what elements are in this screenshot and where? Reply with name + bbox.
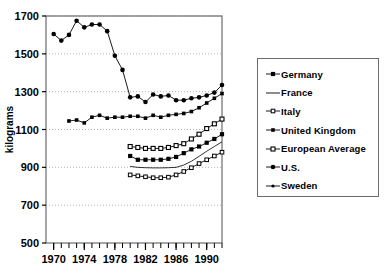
marker-small-filled-square <box>144 116 148 120</box>
marker-open-square <box>182 142 186 146</box>
marker-filled-circle <box>151 92 156 97</box>
x-tick-label: 1978 <box>103 253 127 265</box>
y-tick-label: 1500 <box>15 48 39 60</box>
legend-item-label: Italy <box>281 106 301 117</box>
marker-filled-circle <box>174 98 179 103</box>
legend-item-label: European Average <box>281 143 366 154</box>
marker-open-square <box>136 145 140 149</box>
series-u-s <box>51 18 224 104</box>
marker-open-square <box>271 147 275 151</box>
marker-filled-square <box>220 132 224 136</box>
legend-marker-open-square-icon <box>265 143 281 155</box>
marker-filled-circle <box>67 33 72 38</box>
marker-filled-square <box>174 155 178 159</box>
marker-filled-circle <box>74 18 79 23</box>
marker-small-filled-square <box>82 121 86 125</box>
marker-open-square <box>166 145 170 149</box>
marker-filled-circle <box>158 94 163 99</box>
marker-small-filled-square <box>271 128 275 132</box>
marker-small-filled-square <box>220 92 224 96</box>
marker-filled-circle <box>120 68 125 73</box>
marker-open-square <box>151 146 155 150</box>
marker-open-square-small <box>190 166 194 170</box>
chart-screenshot: 5007009001100130015001700 19701974197819… <box>0 0 385 274</box>
legend-item-sweden[interactable]: Sweden <box>258 177 378 196</box>
legend-marker-open-square-small-icon <box>265 105 281 117</box>
x-tick-label: 1970 <box>41 253 65 265</box>
series-line <box>54 21 222 102</box>
marker-open-square <box>143 146 147 150</box>
legend-item-france[interactable]: France <box>258 84 378 103</box>
legend-marker-small-star-icon <box>265 180 281 192</box>
y-axis-title: kilograms <box>4 105 15 153</box>
marker-small-filled-square <box>167 114 171 118</box>
marker-open-square-small <box>271 110 275 114</box>
marker-filled-circle <box>212 90 217 95</box>
chart-legend: GermanyFranceItalyUnited KingdomEuropean… <box>257 58 379 197</box>
marker-small-filled-square <box>136 114 140 118</box>
marker-filled-circle <box>271 165 276 170</box>
marker-open-square <box>128 145 132 149</box>
marker-small-filled-square <box>190 110 194 114</box>
legend-item-germany[interactable]: Germany <box>258 65 378 84</box>
marker-open-square <box>205 127 209 131</box>
y-tick-label: 900 <box>21 161 39 173</box>
marker-open-square-small <box>220 150 224 154</box>
marker-open-square-small <box>151 176 155 180</box>
marker-open-square <box>159 146 163 150</box>
marker-open-square-small <box>213 154 217 158</box>
marker-small-filled-square <box>182 112 186 116</box>
marker-filled-circle <box>105 29 110 34</box>
marker-small-filled-square <box>159 115 163 119</box>
x-tick-label: 1986 <box>164 253 188 265</box>
legend-item-label: Germany <box>281 69 323 80</box>
legend-item-united-kingdom[interactable]: United Kingdom <box>258 121 378 140</box>
marker-small-filled-square <box>213 96 217 100</box>
marker-small-filled-square <box>121 115 125 119</box>
marker-filled-square <box>182 151 186 155</box>
y-tick-label: 700 <box>21 199 39 211</box>
series-italy <box>128 150 223 179</box>
marker-open-square-small <box>182 170 186 174</box>
marker-filled-circle <box>189 96 194 101</box>
marker-filled-square <box>151 158 155 162</box>
marker-filled-square <box>159 158 163 162</box>
x-tick-label: 1982 <box>133 253 157 265</box>
marker-small-filled-square <box>90 115 94 119</box>
legend-items-list: GermanyFranceItalyUnited KingdomEuropean… <box>258 59 378 196</box>
marker-filled-square <box>166 157 170 161</box>
marker-open-square <box>197 132 201 136</box>
x-tick-label: 1974 <box>72 253 97 265</box>
data-series <box>51 18 224 179</box>
legend-item-european-average[interactable]: European Average <box>258 139 378 158</box>
marker-small-filled-square <box>197 106 201 110</box>
marker-open-square <box>174 144 178 148</box>
marker-small-star <box>271 184 274 187</box>
marker-small-filled-square <box>67 119 71 123</box>
legend-marker-line-only-icon <box>265 87 281 99</box>
legend-item-label: France <box>281 87 313 98</box>
legend-item-italy[interactable]: Italy <box>258 102 378 121</box>
marker-small-filled-square <box>98 114 102 118</box>
y-tick-label: 1300 <box>15 86 39 98</box>
legend-item-u-s[interactable]: U.S. <box>258 158 378 177</box>
y-tick-label: 500 <box>21 237 39 249</box>
marker-filled-circle <box>143 100 148 105</box>
marker-filled-circle <box>181 98 186 103</box>
marker-open-square <box>189 137 193 141</box>
plot-canvas: 5007009001100130015001700 19701974197819… <box>0 0 245 274</box>
x-axis-tick-labels: 197019741978198219861990 <box>41 253 219 265</box>
gridlines <box>46 16 222 205</box>
marker-filled-circle <box>90 22 95 27</box>
y-axis-title-text: kilograms <box>4 105 15 153</box>
marker-small-filled-square <box>75 118 79 122</box>
marker-filled-circle <box>220 83 225 88</box>
marker-open-square-small <box>205 158 209 162</box>
legend-item-label: United Kingdom <box>281 125 356 136</box>
x-axis-ticks <box>54 243 222 250</box>
legend-item-label: U.S. <box>281 162 300 173</box>
legend-marker-filled-circle-icon <box>265 161 281 173</box>
marker-filled-circle <box>97 22 102 27</box>
marker-small-filled-square <box>151 114 155 118</box>
legend-item-label: Sweden <box>281 180 318 191</box>
